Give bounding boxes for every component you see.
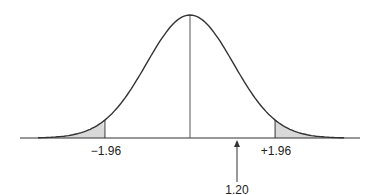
critical-value-right-label: +1.96 <box>261 144 292 158</box>
arrow-head-icon <box>234 140 240 147</box>
normal-distribution-chart: −1.96 +1.96 1.20 <box>0 0 375 195</box>
critical-value-left-label: −1.96 <box>91 144 122 158</box>
marker-label: 1.20 <box>225 183 249 195</box>
normal-curve <box>38 15 344 138</box>
